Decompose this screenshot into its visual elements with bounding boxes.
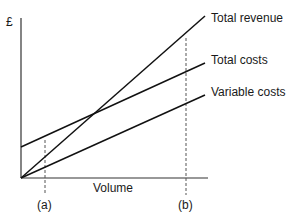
break-even-chart: £ Volume Total revenue Total costs Varia… [0, 0, 292, 216]
marker-b-label: (b) [178, 198, 193, 212]
y-axis-label: £ [6, 15, 13, 29]
x-axis-label: Volume [93, 181, 133, 195]
variable-costs-line [21, 95, 205, 178]
total-costs-line [21, 63, 205, 147]
marker-a-label: (a) [37, 198, 52, 212]
total-costs-label: Total costs [211, 53, 268, 67]
total-revenue-label: Total revenue [211, 11, 283, 25]
total-revenue-line [21, 16, 205, 178]
variable-costs-label: Variable costs [211, 85, 285, 99]
